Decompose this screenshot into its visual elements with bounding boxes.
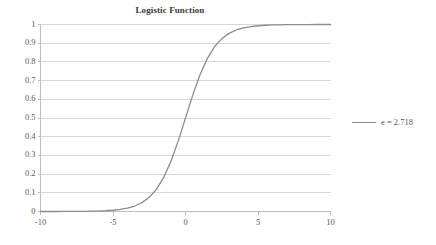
- x-axis-tick-label: -5: [98, 217, 128, 227]
- y-axis-tick-label: 0.1: [10, 187, 36, 197]
- x-axis-tick-label: 10: [316, 217, 346, 227]
- chart-legend: e = 2.718: [352, 117, 413, 127]
- tick-marks-group: [38, 25, 331, 215]
- x-axis-tick-label: 5: [243, 217, 273, 227]
- legend-line-swatch: [352, 122, 376, 123]
- logistic-function-chart: Logistic Function 00.10.20.30.40.50.60.7…: [0, 0, 436, 245]
- legend-label: e = 2.718: [381, 117, 413, 127]
- x-axis-tick-label: -10: [26, 217, 56, 227]
- y-axis-tick-label: 0.6: [10, 93, 36, 103]
- y-axis-tick-label: 0.4: [10, 131, 36, 141]
- y-axis-tick-label: 0.7: [10, 75, 36, 85]
- y-axis-tick-label: 0.3: [10, 149, 36, 159]
- y-axis-tick-label: 0.9: [10, 37, 36, 47]
- y-axis-tick-label: 0.5: [10, 112, 36, 122]
- y-axis-tick-label: 1: [10, 19, 36, 29]
- x-axis-tick-label: 0: [171, 217, 201, 227]
- gridlines-group: [41, 25, 331, 193]
- y-axis-tick-label: 0: [10, 206, 36, 216]
- y-axis-tick-label: 0.2: [10, 168, 36, 178]
- y-axis-tick-label: 0.8: [10, 56, 36, 66]
